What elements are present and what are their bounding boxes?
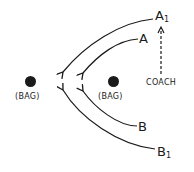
runner-b-label: B bbox=[138, 120, 147, 133]
runner-a-label: A bbox=[139, 32, 148, 45]
bag-right-label: (BAG) bbox=[98, 93, 123, 101]
runner-b1-label: B1 bbox=[157, 145, 171, 160]
arrow-a-path bbox=[83, 39, 138, 73]
baserunning-diagram: (BAG) (BAG) A1 A B B1 COACH bbox=[0, 0, 194, 172]
runner-a1-label: A1 bbox=[155, 9, 169, 24]
bag-right-dot bbox=[108, 76, 119, 87]
coach-label: COACH bbox=[146, 79, 176, 87]
bag-left-dot bbox=[25, 76, 36, 87]
bag-left-label: (BAG) bbox=[15, 93, 40, 101]
